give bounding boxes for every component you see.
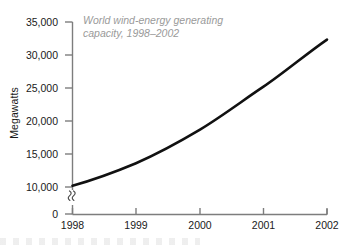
x-tick-label-2002: 2002 xyxy=(302,219,350,231)
y-tick-label-wrap-10000: 10,000 xyxy=(14,181,58,193)
y-tick-label-30000: 30,000 xyxy=(14,49,58,61)
wind-energy-line-chart: Megawatts 35,000 30,000 25,000 20,000 15… xyxy=(0,0,350,247)
y-tick-label-wrap-15000: 15,000 xyxy=(14,148,58,160)
data-line-wind-capacity xyxy=(73,40,328,186)
y-tick-label-wrap-25000: 25,000 xyxy=(14,82,58,94)
axis-break-squiggle xyxy=(68,191,75,200)
page-edge-artifact xyxy=(0,238,200,245)
x-tick-label-2000: 2000 xyxy=(175,219,225,231)
chart-title-line-2: capacity, 1998–2002 xyxy=(83,27,323,40)
y-tick-label-wrap-35000: 35,000 xyxy=(14,16,58,28)
x-axis-ticks xyxy=(73,208,328,215)
y-tick-label-20000: 20,000 xyxy=(14,115,58,127)
y-tick-label-10000: 10,000 xyxy=(14,181,58,193)
chart-title-line-1: World wind-energy generating xyxy=(83,14,323,27)
chart-title: World wind-energy generating capacity, 1… xyxy=(83,14,323,40)
x-tick-label-1999: 1999 xyxy=(111,219,161,231)
x-tick-label-2001: 2001 xyxy=(239,219,289,231)
x-tick-label-1998: 1998 xyxy=(48,219,98,231)
y-tick-label-wrap-30000: 30,000 xyxy=(14,49,58,61)
y-tick-label-25000: 25,000 xyxy=(14,82,58,94)
y-tick-label-15000: 15,000 xyxy=(14,148,58,160)
y-tick-label-35000: 35,000 xyxy=(14,16,58,28)
y-tick-label-wrap-20000: 20,000 xyxy=(14,115,58,127)
